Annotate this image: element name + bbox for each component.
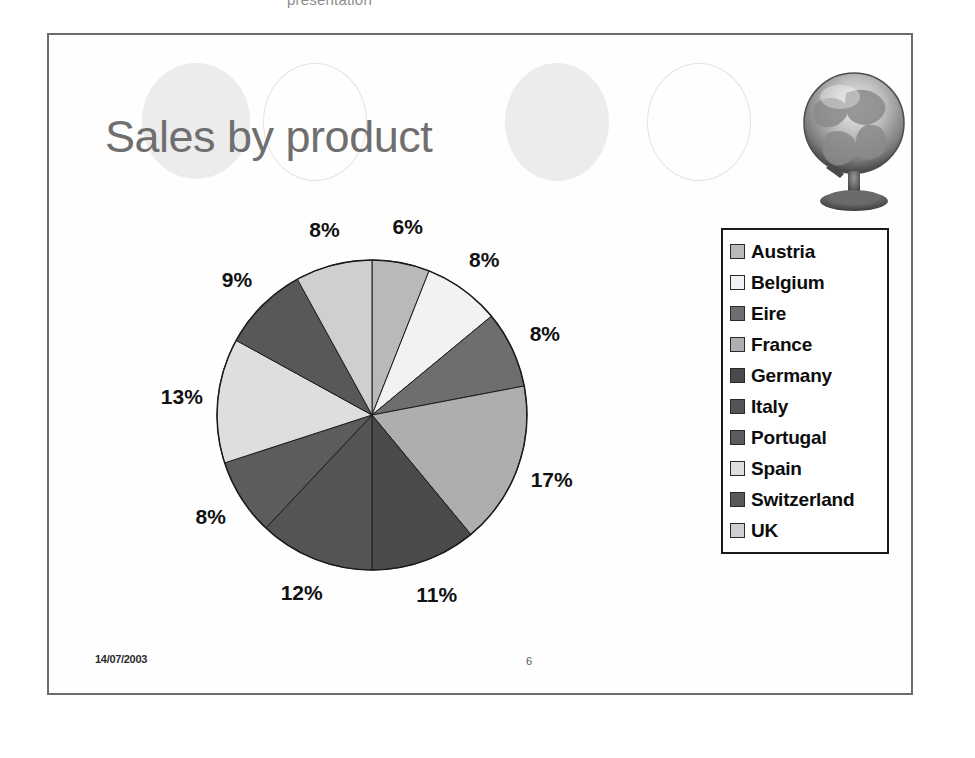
legend-item-label: Germany (751, 365, 832, 387)
pie-slice-label: 6% (393, 215, 423, 239)
legend-swatch-icon (730, 368, 745, 383)
pie-slice-label: 11% (416, 583, 457, 607)
pie-slice-label: 8% (469, 248, 499, 272)
pie-slice-label: 12% (281, 581, 323, 605)
legend-item[interactable]: Eire (730, 298, 882, 329)
legend-item-label: Italy (751, 396, 788, 418)
pie-slice-label: 8% (530, 322, 560, 346)
legend-item-label: Spain (751, 458, 802, 480)
legend-swatch-icon (730, 523, 745, 538)
page-title: Sales by product (105, 111, 432, 163)
globe-icon (794, 63, 914, 218)
legend-item-label: Eire (751, 303, 786, 325)
page-header-strip: presentation (0, 0, 975, 18)
legend-item[interactable]: Switzerland (730, 484, 882, 515)
legend-item[interactable]: Germany (730, 360, 882, 391)
legend-item-label: UK (751, 520, 778, 542)
legend-swatch-icon (730, 399, 745, 414)
decorative-circle-3 (505, 63, 609, 181)
legend-item[interactable]: Italy (730, 391, 882, 422)
pie-slice-label: 13% (161, 385, 203, 409)
legend-swatch-icon (730, 275, 745, 290)
legend-item-label: France (751, 334, 812, 356)
page-header-cutoff-text: presentation (287, 0, 372, 8)
legend-item-label: Belgium (751, 272, 825, 294)
footer-date: 14/07/2003 (95, 653, 147, 665)
pie-slice-label: 9% (222, 268, 252, 292)
legend-swatch-icon (730, 337, 745, 352)
legend-item-label: Switzerland (751, 489, 854, 511)
legend-item[interactable]: France (730, 329, 882, 360)
legend-item[interactable]: Belgium (730, 267, 882, 298)
legend-item-label: Portugal (751, 427, 826, 449)
pie-slice-label: 8% (196, 505, 226, 529)
decorative-circle-4 (647, 63, 751, 181)
legend-swatch-icon (730, 461, 745, 476)
pie-slice-label: 8% (309, 218, 339, 242)
footer-page-number: 6 (519, 655, 539, 667)
legend-swatch-icon (730, 244, 745, 259)
pie-slice-label: 17% (531, 468, 573, 492)
pie-chart-svg (179, 200, 629, 620)
legend-item[interactable]: UK (730, 515, 882, 546)
legend-swatch-icon (730, 430, 745, 445)
legend-swatch-icon (730, 306, 745, 321)
legend-item[interactable]: Austria (730, 236, 882, 267)
pie-chart: 6%8%8%17%11%12%8%13%9%8% (179, 200, 629, 620)
legend-item[interactable]: Portugal (730, 422, 882, 453)
chart-legend: AustriaBelgiumEireFranceGermanyItalyPort… (721, 228, 889, 554)
presentation-slide: Sales by product (47, 33, 913, 695)
legend-item[interactable]: Spain (730, 453, 882, 484)
legend-swatch-icon (730, 492, 745, 507)
legend-item-label: Austria (751, 241, 815, 263)
